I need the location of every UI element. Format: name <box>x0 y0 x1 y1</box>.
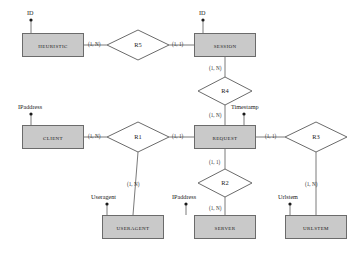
attribute-label-client-ipaddress: IPaddress <box>18 103 42 110</box>
cardinality-r4-request: (1, N) <box>209 112 221 118</box>
attribute-dot-useragent-useragent <box>105 202 108 205</box>
relationship-label-r2: R2 <box>205 179 245 186</box>
attribute-dot-request-timestamp <box>242 112 245 115</box>
cardinality-r5-session: (1, 1) <box>172 41 183 47</box>
attribute-label-useragent-useragent: Useragent <box>91 193 116 200</box>
cardinality-client-r1: (1, N) <box>88 133 100 139</box>
entity-useragent[interactable]: UserAgent <box>102 215 164 239</box>
entity-label: UrlStem <box>303 224 329 231</box>
entity-label: Client <box>43 134 63 141</box>
relationship-label-r3: R3 <box>296 133 336 140</box>
entity-client[interactable]: Client <box>22 125 84 149</box>
cardinality-r3-urlstem: (1, N) <box>305 181 317 187</box>
relationship-label-r5: R5 <box>118 41 158 48</box>
attribute-label-server-ipaddress: IPaddress <box>172 193 196 200</box>
entity-label: Heuristic <box>38 42 67 49</box>
relationship-label-r1: R1 <box>118 133 158 140</box>
entity-label: UserAgent <box>117 224 150 231</box>
cardinality-request-r2: (1, 1) <box>209 159 220 165</box>
cardinality-heuristic-r5: (1, N) <box>88 41 100 47</box>
entity-urlstem[interactable]: UrlStem <box>285 215 347 239</box>
entity-label: Server <box>215 224 236 231</box>
entity-label: Request <box>213 134 238 141</box>
cardinality-session-r4: (1, N) <box>209 65 221 71</box>
cardinality-r1-useragent: (1, N) <box>127 181 139 187</box>
entity-request[interactable]: Request <box>194 125 256 149</box>
attribute-label-session-id: ID <box>199 9 206 16</box>
cardinality-r2-server: (1, N) <box>209 205 221 211</box>
attribute-dot-heuristic-id <box>29 18 32 21</box>
entity-server[interactable]: Server <box>194 215 256 239</box>
er-diagram-canvas: HeuristicSessionClientRequestUserAgentSe… <box>0 0 357 255</box>
attribute-label-request-timestamp: Timestamp <box>231 103 259 110</box>
attribute-label-urlstem-urlstem: Urlstem <box>278 193 298 200</box>
cardinality-request-r3: (1, 1) <box>265 133 276 139</box>
attribute-dot-urlstem-urlstem <box>288 202 291 205</box>
cardinality-r1-request: (1, 1) <box>172 133 183 139</box>
entity-heuristic[interactable]: Heuristic <box>22 33 84 57</box>
relationship-label-r4: R4 <box>205 87 245 94</box>
attribute-dot-client-ipaddress <box>29 112 32 115</box>
entity-label: Session <box>214 42 237 49</box>
entity-session[interactable]: Session <box>194 33 256 57</box>
attribute-dot-session-id <box>201 18 204 21</box>
attribute-dot-server-ipaddress <box>184 202 187 205</box>
attribute-label-heuristic-id: ID <box>27 9 34 16</box>
